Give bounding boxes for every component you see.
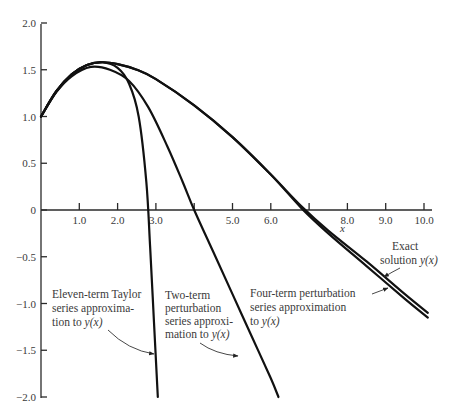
y-tick-label: −1.5 <box>16 344 36 356</box>
svg-text:mation to y(x): mation to y(x) <box>165 328 230 341</box>
curve-exact-solution <box>41 62 428 313</box>
x-tick-label: 6.0 <box>264 214 278 226</box>
x-tick-label: 5.0 <box>226 214 240 226</box>
svg-text:tion to y(x): tion to y(x) <box>52 316 103 329</box>
svg-text:Exact: Exact <box>392 240 419 252</box>
curve-two-term-perturbation <box>41 67 278 397</box>
y-tick-label: −2.0 <box>16 391 36 403</box>
x-tick-label: 10.0 <box>414 214 434 226</box>
annotation-exact: Exact solution y(x) <box>380 240 438 277</box>
annotation-taylor: Eleven-term Taylor series approxima- tio… <box>52 288 154 354</box>
y-tick-label: 0 <box>31 204 37 216</box>
leader-arrow-taylor <box>108 330 154 354</box>
svg-text:perturbation: perturbation <box>165 302 221 315</box>
leader-arrow-four-term <box>372 288 388 294</box>
svg-text:series approxima-: series approxima- <box>52 302 134 315</box>
x-axis: 1.02.03.05.06.08.09.010.0 x <box>41 203 434 234</box>
svg-text:Eleven-term Taylor: Eleven-term Taylor <box>52 288 142 301</box>
x-axis-label: x <box>339 222 345 234</box>
chart: 2.01.51.00.50−0.5−1.0−1.5−2.0 1.02.03.05… <box>0 0 455 420</box>
y-tick-label: 1.0 <box>22 111 36 123</box>
curves <box>41 62 428 397</box>
svg-text:series approximation: series approximation <box>250 301 346 314</box>
leader-arrow-exact <box>384 268 400 277</box>
y-tick-label: −0.5 <box>16 251 36 263</box>
svg-text:series approxi-: series approxi- <box>165 315 233 328</box>
svg-text:to y(x): to y(x) <box>250 315 280 328</box>
x-ticks: 1.02.03.05.06.08.09.010.0 <box>72 203 434 226</box>
y-tick-label: 0.5 <box>22 157 36 169</box>
x-tick-label: 9.0 <box>379 214 393 226</box>
svg-text:Two-term: Two-term <box>165 289 210 301</box>
curve-eleven-term-taylor <box>41 62 158 397</box>
x-tick-label: 3.0 <box>149 214 163 226</box>
x-tick-label: 2.0 <box>111 214 125 226</box>
y-tick-label: −1.0 <box>16 298 36 310</box>
annotation-two-term: Two-term perturbation series approxi- ma… <box>165 289 238 356</box>
svg-text:solution y(x): solution y(x) <box>380 254 438 267</box>
y-tick-label: 2.0 <box>22 17 36 29</box>
svg-text:Four-term perturbation: Four-term perturbation <box>250 287 356 300</box>
x-tick-label: 1.0 <box>72 214 86 226</box>
leader-arrow-two-term <box>200 343 238 356</box>
annotation-four-term: Four-term perturbation series approximat… <box>250 287 388 328</box>
curve-four-term-perturbation <box>41 62 428 317</box>
y-tick-label: 1.5 <box>22 64 36 76</box>
